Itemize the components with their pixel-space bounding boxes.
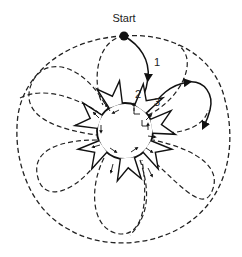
path-label-2: 2	[135, 88, 141, 100]
orbit-diagram: Start 1 2 3	[0, 0, 242, 257]
path-label-1: 1	[154, 56, 160, 68]
path-label-3: 3	[154, 96, 160, 108]
start-label: Start	[112, 12, 135, 24]
start-point	[120, 32, 129, 41]
